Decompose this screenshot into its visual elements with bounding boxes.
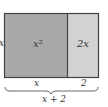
area-model-diagram: x² 2x x x 2 x + 2 <box>0 0 108 107</box>
label-side-x: x <box>0 38 4 48</box>
label-total: x + 2 <box>42 94 66 104</box>
brace-icon <box>5 87 98 94</box>
label-bottom-x: x <box>34 78 39 88</box>
label-2x: 2x <box>76 38 89 49</box>
label-x-squared: x² <box>33 38 43 49</box>
label-bottom-2: 2 <box>80 78 87 88</box>
